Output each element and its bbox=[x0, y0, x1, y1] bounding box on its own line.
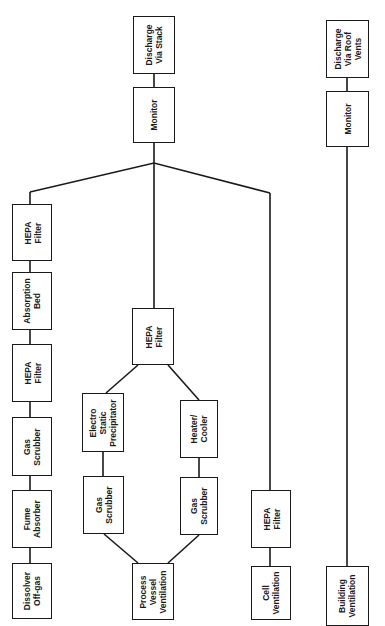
hepa-filter-vessel-label: HEPA Filter bbox=[143, 325, 163, 348]
gas-scrubber-offgas-box: Gas Scrubber bbox=[12, 417, 52, 476]
gas-scrubber-offgas-label: Gas Scrubber bbox=[22, 428, 42, 465]
dissolver-offgas-box: Dissolver Off-gas bbox=[12, 563, 52, 619]
gas-scrubber-b-label: Gas Scrubber bbox=[189, 487, 209, 524]
hepa-filter-2-box: HEPA Filter bbox=[12, 344, 52, 402]
electro-static-precipitator-label: Electro Static Precipitator bbox=[88, 399, 118, 446]
hepa-filter-2-label: HEPA Filter bbox=[22, 362, 42, 385]
absorption-bed-label: Absorption Bed bbox=[22, 278, 42, 323]
building-ventilation-box: Building Ventilation bbox=[326, 566, 369, 626]
monitor-roof-label: Monitor bbox=[342, 103, 352, 134]
gas-scrubber-a-box: Gas Scrubber bbox=[83, 476, 124, 534]
monitor-roof-box: Monitor bbox=[326, 91, 369, 147]
hepa-filter-vessel-box: HEPA Filter bbox=[132, 308, 174, 365]
discharge-via-stack-box: Discharge Via Stack bbox=[133, 16, 175, 74]
fume-absorber-box: Fume Absorber bbox=[12, 490, 52, 548]
hepa-filter-cell-box: HEPA Filter bbox=[251, 490, 291, 548]
hepa-filter-1-label: HEPA Filter bbox=[22, 221, 42, 244]
discharge-via-roof-vents-label: Discharge Via Roof Vents bbox=[333, 28, 363, 69]
cell-ventilation-box: Cell Ventilation bbox=[251, 566, 291, 620]
discharge-via-roof-vents-box: Discharge Via Roof Vents bbox=[326, 20, 369, 78]
hepa-filter-1-box: HEPA Filter bbox=[12, 204, 52, 261]
cell-ventilation-label: Cell Ventilation bbox=[261, 572, 281, 615]
monitor-stack-label: Monitor bbox=[149, 99, 159, 130]
monitor-stack-box: Monitor bbox=[133, 87, 175, 143]
electro-static-precipitator-box: Electro Static Precipitator bbox=[82, 393, 124, 452]
gas-scrubber-b-box: Gas Scrubber bbox=[180, 477, 218, 535]
gas-scrubber-a-label: Gas Scrubber bbox=[93, 486, 113, 523]
building-ventilation-label: Building Ventilation bbox=[338, 575, 358, 618]
heater-cooler-box: Heater/ Cooler bbox=[180, 400, 218, 458]
process-vessel-ventilation-box: Process Vessel Ventilation bbox=[132, 563, 174, 620]
process-vessel-ventilation-label: Process Vessel Ventilation bbox=[138, 570, 168, 613]
absorption-bed-box: Absorption Bed bbox=[12, 272, 52, 330]
fume-absorber-label: Fume Absorber bbox=[22, 500, 42, 538]
discharge-via-stack-label: Discharge Via Stack bbox=[144, 24, 164, 65]
heater-cooler-label: Heater/ Cooler bbox=[189, 415, 209, 444]
hepa-filter-cell-label: HEPA Filter bbox=[261, 508, 281, 531]
dissolver-offgas-label: Dissolver Off-gas bbox=[22, 572, 42, 610]
